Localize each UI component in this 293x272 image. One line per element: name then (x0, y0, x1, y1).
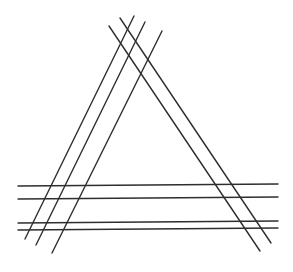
triangle-line-diagram (0, 0, 293, 272)
diagram-background (0, 0, 293, 272)
